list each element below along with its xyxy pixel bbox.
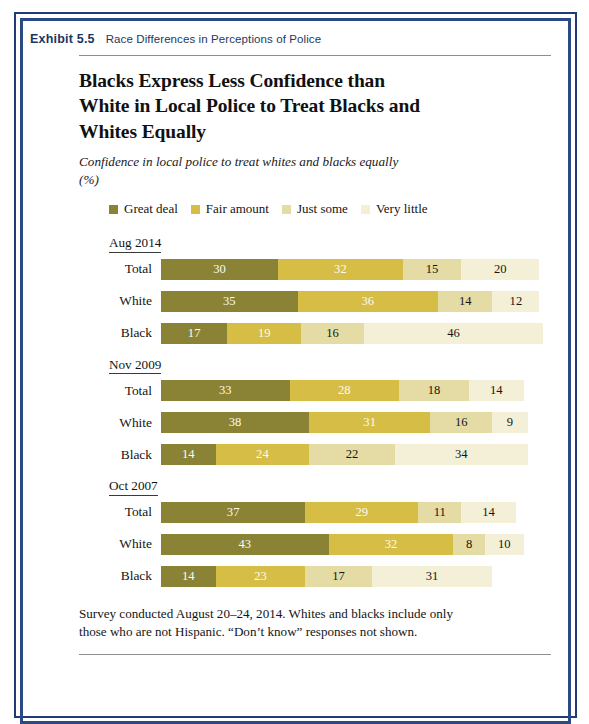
bar-segment-value: 20: [494, 262, 507, 277]
bar-segment-value: 8: [466, 537, 472, 552]
bar-segment: 18: [399, 380, 469, 401]
legend-item: Fair amount: [191, 201, 269, 217]
bar-segment-value: 14: [182, 569, 195, 584]
bar-row-label: Black: [79, 325, 161, 341]
exhibit-content: Exhibit 5.5 Race Differences in Percepti…: [26, 24, 565, 714]
exhibit-caption: Race Differences in Perceptions of Polic…: [106, 33, 321, 45]
bar-row-label: Total: [79, 261, 161, 277]
group-period-label: Oct 2007: [109, 479, 158, 496]
bar-segment: 35: [161, 291, 298, 312]
bar-segment-value: 46: [447, 326, 460, 341]
chart-subtitle: Confidence in local police to treat whit…: [79, 153, 409, 188]
bar-segment: 38: [161, 412, 309, 433]
legend-label: Fair amount: [206, 201, 269, 217]
legend-item: Just some: [282, 201, 348, 217]
legend-label: Just some: [297, 201, 348, 217]
stacked-bar: 4332810: [161, 534, 551, 555]
bar-segment: 17: [305, 566, 371, 587]
bar-row: Total33281814: [79, 380, 551, 401]
group-period-label: Aug 2014: [109, 236, 161, 253]
bar-segment: 14: [461, 502, 516, 523]
bar-segment-value: 34: [455, 447, 468, 462]
group-period-label: Nov 2009: [109, 358, 161, 375]
bar-segment: 20: [461, 259, 539, 280]
bar-segment-value: 37: [227, 505, 240, 520]
bar-row-label: White: [79, 536, 161, 552]
stacked-bar: 37291114: [161, 502, 551, 523]
chart-group: Oct 2007Total37291114White4332810Black14…: [79, 476, 551, 587]
bar-segment: 22: [309, 444, 395, 465]
bar-segment-value: 11: [434, 505, 446, 520]
bar-segment-value: 14: [459, 294, 472, 309]
bar-segment-value: 15: [426, 262, 439, 277]
legend-swatch-icon: [191, 205, 200, 214]
bar-row-label: Total: [79, 383, 161, 399]
bar-segment: 14: [161, 566, 216, 587]
chart-block: Blacks Express Less Confidence than Whit…: [79, 55, 551, 655]
bar-segment-value: 17: [188, 326, 201, 341]
stacked-bar: 30321520: [161, 259, 551, 280]
bar-segment-value: 10: [498, 537, 511, 552]
stacked-bar: 33281814: [161, 380, 551, 401]
bar-segment: 14: [161, 444, 216, 465]
bar-segment-value: 35: [223, 294, 236, 309]
bar-segment: 31: [372, 566, 493, 587]
bar-segment-value: 36: [361, 294, 374, 309]
bar-segment: 10: [485, 534, 524, 555]
bar-segment: 36: [298, 291, 438, 312]
bar-segment: 17: [161, 323, 227, 344]
bar-segment: 46: [364, 323, 543, 344]
bar-row: Black14231731: [79, 566, 551, 587]
bar-row: White3831169: [79, 412, 551, 433]
bar-segment-value: 18: [428, 383, 441, 398]
bar-segment-value: 30: [213, 262, 226, 277]
bar-segment-value: 19: [258, 326, 271, 341]
bar-segment-value: 22: [346, 447, 359, 462]
bar-segment: 33: [161, 380, 290, 401]
bar-segment-value: 31: [363, 415, 376, 430]
legend-swatch-icon: [109, 205, 118, 214]
bar-segment-value: 38: [229, 415, 242, 430]
exhibit-number-label: Exhibit 5.5: [30, 32, 95, 46]
bar-segment: 11: [418, 502, 461, 523]
bar-segment: 29: [305, 502, 418, 523]
bar-row: Black14242234: [79, 444, 551, 465]
bar-segment-value: 29: [356, 505, 369, 520]
bar-segment: 28: [290, 380, 399, 401]
bar-segment-value: 9: [507, 415, 513, 430]
bar-segment: 30: [161, 259, 278, 280]
bar-segment-value: 16: [326, 326, 339, 341]
bar-segment: 15: [403, 259, 462, 280]
bar-segment: 9: [492, 412, 527, 433]
bar-segment-value: 23: [254, 569, 267, 584]
chart-group: Aug 2014Total30321520White35361412Black1…: [79, 233, 551, 344]
bar-segment-value: 32: [385, 537, 398, 552]
bar-row: Total30321520: [79, 259, 551, 280]
bottom-divider: [79, 654, 551, 655]
bar-segment-value: 12: [510, 294, 523, 309]
bar-segment-value: 14: [182, 447, 195, 462]
bar-segment: 32: [329, 534, 454, 555]
exhibit-header: Exhibit 5.5 Race Differences in Percepti…: [26, 24, 565, 46]
bar-segment: 24: [216, 444, 310, 465]
bar-segment: 43: [161, 534, 329, 555]
bar-segment: 37: [161, 502, 305, 523]
chart-footnote: Survey conducted August 20–24, 2014. Whi…: [79, 605, 479, 641]
chart-legend: Great dealFair amountJust someVery littl…: [109, 201, 551, 217]
bar-segment: 14: [438, 291, 493, 312]
bar-row: White35361412: [79, 291, 551, 312]
bar-segment: 8: [453, 534, 484, 555]
bar-segment: 19: [227, 323, 301, 344]
bar-row: White4332810: [79, 534, 551, 555]
bar-segment: 32: [278, 259, 403, 280]
bar-row-label: White: [79, 293, 161, 309]
bar-segment-value: 16: [455, 415, 468, 430]
bar-row: Total37291114: [79, 502, 551, 523]
bar-segment-value: 33: [219, 383, 232, 398]
bar-segment: 16: [301, 323, 363, 344]
bar-segment-value: 43: [239, 537, 252, 552]
bar-segment: 34: [395, 444, 528, 465]
stacked-bar: 14242234: [161, 444, 551, 465]
legend-swatch-icon: [361, 205, 370, 214]
bar-row: Black17191646: [79, 323, 551, 344]
